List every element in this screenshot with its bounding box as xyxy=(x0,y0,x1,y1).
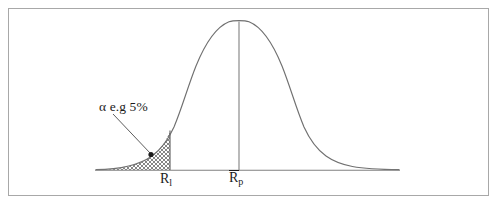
normal-distribution-curve xyxy=(96,21,399,170)
threshold-label-subscript: l xyxy=(169,177,172,188)
threshold-label-base: R xyxy=(160,171,169,186)
annotation-leader-dot xyxy=(148,152,153,157)
mean-label-subscript: p xyxy=(238,176,243,187)
alpha-annotation-label: α e.g 5% xyxy=(99,100,148,114)
annotation-leader-line xyxy=(113,114,151,154)
mean-label-base: R xyxy=(229,170,238,185)
figure-border xyxy=(9,9,489,196)
distribution-figure: α e.g 5% Rl Rp xyxy=(0,0,499,208)
mean-axis-label: Rp xyxy=(229,170,243,187)
threshold-axis-label: Rl xyxy=(160,172,172,188)
rejection-region xyxy=(90,120,180,175)
figure-canvas xyxy=(0,0,499,208)
